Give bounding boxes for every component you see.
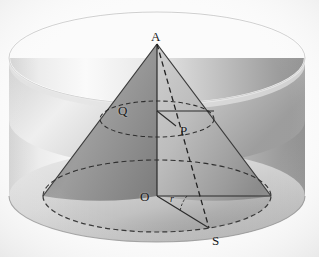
label-point-a: A [151,30,160,43]
label-point-s: S [212,234,219,247]
label-angle-mark: r [170,194,174,204]
geometry-figure: A Q P O S r [0,0,319,257]
label-point-p: P [180,124,187,137]
label-point-q: Q [118,104,127,117]
label-point-o: O [140,190,149,203]
